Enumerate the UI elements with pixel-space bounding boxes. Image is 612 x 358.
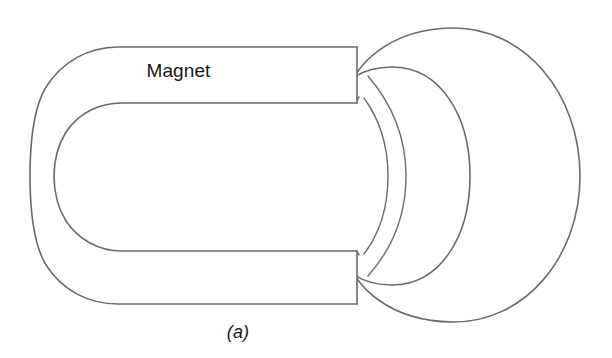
magnet-body bbox=[30, 47, 357, 304]
torus-hole-right-arc bbox=[364, 98, 388, 254]
figure-container: Magnet (a) bbox=[0, 0, 612, 358]
diagram-canvas bbox=[0, 0, 612, 358]
torus-tube-outer-arc bbox=[368, 76, 406, 276]
torus-ring bbox=[320, 28, 580, 322]
torus-outer-contour bbox=[344, 28, 580, 322]
figure-caption: (a) bbox=[0, 322, 476, 343]
magnet-label: Magnet bbox=[0, 60, 357, 82]
magnet-inner-fill bbox=[44, 103, 357, 251]
